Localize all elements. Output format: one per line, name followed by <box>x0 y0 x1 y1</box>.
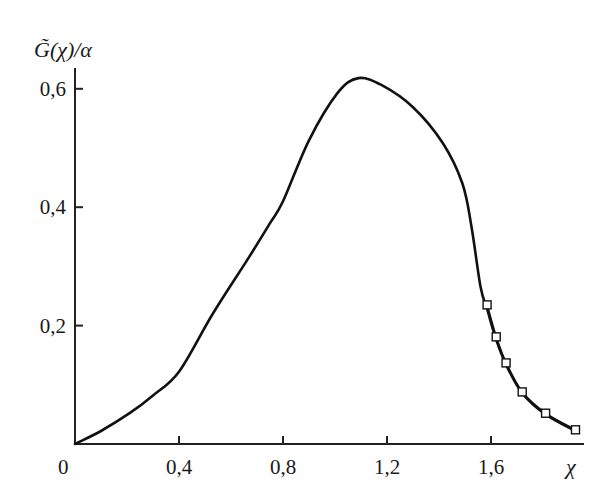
x-axis-title: χ <box>564 454 577 479</box>
y-axis-title: G̃(χ)/α <box>34 37 92 62</box>
x-tick-label: 1,6 <box>478 455 504 479</box>
square-marker <box>542 409 550 417</box>
y-tick-label: 0,2 <box>40 314 66 338</box>
x-tick-label: 0,4 <box>166 455 193 479</box>
x-tick-label: 0,8 <box>270 455 296 479</box>
axes <box>75 68 584 444</box>
chart: 00,40,81,21,6 0,20,40,6 G̃(χ)/α χ <box>0 0 612 502</box>
x-tick-label: 0 <box>58 455 69 479</box>
series-layer <box>75 78 580 444</box>
square-marker <box>492 333 500 341</box>
marker-line <box>487 305 575 430</box>
x-ticks: 00,40,81,21,6 <box>58 436 504 479</box>
y-ticks: 0,20,40,6 <box>40 77 83 338</box>
square-marker <box>502 359 510 367</box>
y-tick-label: 0,6 <box>40 77 66 101</box>
square-marker <box>518 388 526 396</box>
y-tick-label: 0,4 <box>40 195 67 219</box>
curve-line <box>75 78 576 444</box>
square-marker <box>572 426 580 434</box>
x-tick-label: 1,2 <box>374 455 400 479</box>
square-marker <box>483 301 491 309</box>
